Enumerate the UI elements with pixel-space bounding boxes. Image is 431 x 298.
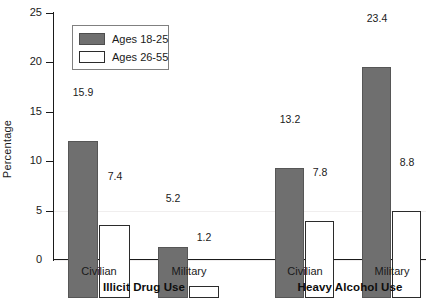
y-tick-mark-20 [46, 62, 54, 63]
bar-value-drug-civilian-ages-18-25: 15.9 [58, 87, 108, 98]
bar-value-drug-civilian-ages-26-55: 7.4 [90, 171, 140, 182]
legend-label-ages-26-55: Ages 26-55 [112, 50, 168, 64]
y-tick-mark-10 [46, 161, 54, 162]
y-axis-line [53, 12, 54, 261]
bar-value-alcohol-military-ages-26-55: 8.8 [382, 157, 431, 168]
bar-value-drug-military-ages-18-25: 5.2 [148, 193, 198, 204]
x-label-drug-military: Military [154, 265, 224, 277]
x-group-label-illicit-drug-use: Illicit Drug Use [74, 281, 214, 294]
legend: Ages 18-25 Ages 26-55 [72, 25, 169, 70]
x-label-drug-civilian: Civilian [64, 265, 134, 277]
x-group-label-heavy-alcohol-use: Heavy Alcohol Use [280, 281, 420, 294]
bar-alcohol-civilian-ages-18-25 [275, 168, 304, 298]
y-tick-label-5: 5 [8, 205, 42, 216]
y-tick-label-20: 20 [8, 56, 42, 67]
legend-label-ages-18-25: Ages 18-25 [112, 32, 168, 46]
legend-swatch-ages-18-25-icon [79, 33, 105, 45]
legend-swatch-ages-26-55-icon [79, 51, 105, 63]
bar-value-alcohol-civilian-ages-26-55: 7.8 [295, 167, 345, 178]
y-tick-mark-25 [46, 13, 54, 14]
y-tick-label-0: 0 [8, 254, 42, 265]
x-label-alcohol-civilian: Civilian [270, 265, 340, 277]
x-label-alcohol-military: Military [357, 265, 427, 277]
bar-chart: Percentage 25 20 15 10 5 0 15.9 7.4 5.2 … [0, 0, 431, 298]
y-tick-label-10: 10 [8, 155, 42, 166]
y-tick-mark-5 [46, 211, 54, 212]
bar-value-drug-military-ages-26-55: 1.2 [179, 232, 229, 243]
bar-value-alcohol-civilian-ages-18-25: 13.2 [265, 114, 315, 125]
y-tick-mark-15 [46, 112, 54, 113]
bar-value-alcohol-military-ages-18-25: 23.4 [352, 13, 402, 24]
y-tick-label-15: 15 [8, 106, 42, 117]
y-tick-label-25: 25 [8, 7, 42, 18]
bar-alcohol-military-ages-18-25 [362, 67, 391, 298]
